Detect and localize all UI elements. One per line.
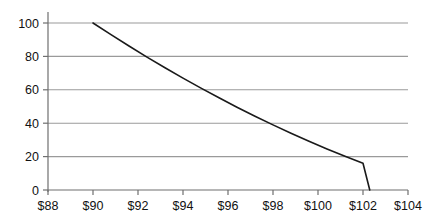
x-tick-label: $94 bbox=[173, 199, 194, 213]
y-tick-label: 80 bbox=[25, 50, 39, 64]
x-tick-label: $92 bbox=[128, 199, 149, 213]
y-tick-label: 60 bbox=[25, 83, 39, 97]
y-tick-label: 0 bbox=[32, 184, 39, 198]
series-line bbox=[93, 23, 370, 190]
x-tick-label: $100 bbox=[304, 199, 332, 213]
data-series-line bbox=[93, 23, 370, 190]
line-chart: 020406080100 $88$90$92$94$96$98$100$102$… bbox=[0, 0, 436, 220]
x-tick-label: $102 bbox=[349, 199, 377, 213]
x-tick-label: $88 bbox=[38, 199, 59, 213]
x-tick-label: $96 bbox=[218, 199, 239, 213]
x-axis-tick-labels: $88$90$92$94$96$98$100$102$104 bbox=[38, 199, 422, 213]
y-tick-label: 20 bbox=[25, 150, 39, 164]
x-tick-label: $90 bbox=[83, 199, 104, 213]
y-axis-tick-labels: 020406080100 bbox=[18, 17, 39, 198]
chart-canvas: 020406080100 $88$90$92$94$96$98$100$102$… bbox=[0, 0, 436, 220]
x-axis-ticks bbox=[48, 190, 408, 195]
y-tick-label: 100 bbox=[18, 17, 39, 31]
y-tick-label: 40 bbox=[25, 117, 39, 131]
gridlines bbox=[48, 23, 408, 157]
y-axis-ticks bbox=[43, 23, 48, 190]
x-tick-label: $104 bbox=[394, 199, 422, 213]
x-tick-label: $98 bbox=[263, 199, 284, 213]
